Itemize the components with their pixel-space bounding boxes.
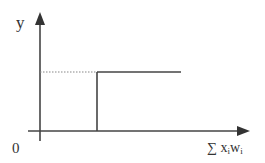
y-axis-label: y [16,14,25,31]
x-axis-label-w: w [230,140,240,155]
x-axis-label: ∑ xiwi [207,141,243,156]
step-function-diagram [0,0,265,163]
y-axis-arrow-icon [35,12,45,25]
origin-label: 0 [12,141,20,156]
x-axis-label-sub-i2: i [240,146,243,156]
x-axis-arrow-icon [237,126,250,136]
x-axis-label-sum: ∑ x [207,140,227,155]
